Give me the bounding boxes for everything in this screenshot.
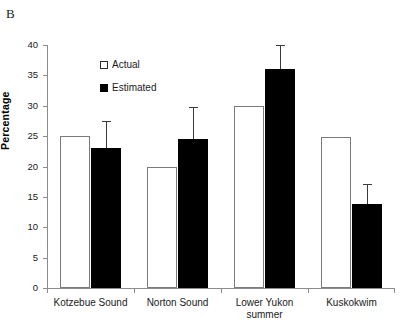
y-tick-label: 20: [18, 162, 38, 171]
open-square-icon: [100, 61, 108, 69]
panel-label: B: [6, 6, 15, 22]
chart-figure: B Percentage 0510152025303540 ActualEsti…: [0, 0, 410, 336]
error-bar-cap: [189, 107, 198, 108]
filled-square-icon: [100, 84, 108, 92]
x-category-label: Lower Yukonsummer: [221, 297, 308, 321]
bar-actual: [60, 136, 90, 288]
y-tick-label: 35: [18, 70, 38, 79]
legend-item-actual: Actual: [100, 60, 140, 70]
bar-estimated: [265, 69, 295, 288]
y-tick-label: 15: [18, 192, 38, 201]
x-category-label-line: summer: [221, 309, 308, 321]
bar-actual: [234, 106, 264, 288]
bar-actual: [321, 137, 351, 288]
error-bar-cap: [363, 184, 372, 185]
error-bar-line: [106, 121, 107, 148]
error-bar-line: [367, 184, 368, 204]
y-tick-label: 30: [18, 101, 38, 110]
y-tick-label: 40: [18, 40, 38, 49]
x-category-label-line: Kotzebue Sound: [47, 297, 134, 309]
y-tick-label: 10: [18, 222, 38, 231]
error-bar-line: [280, 45, 281, 69]
x-category-label: Kotzebue Sound: [47, 297, 134, 309]
y-axis-title: Percentage: [0, 91, 11, 150]
legend-label: Actual: [112, 60, 140, 70]
x-category-label-line: Kuskokwim: [308, 297, 395, 309]
y-tick-label: 25: [18, 131, 38, 140]
x-tick-mark: [221, 288, 222, 293]
x-tick-mark: [394, 288, 395, 293]
plot-area: [47, 45, 395, 288]
x-tick-mark: [134, 288, 135, 293]
x-category-label-line: Norton Sound: [134, 297, 221, 309]
error-bar-cap: [102, 121, 111, 122]
x-category-label-line: Lower Yukon: [221, 297, 308, 309]
bar-estimated: [352, 204, 382, 288]
bar-estimated: [91, 148, 121, 288]
bar-actual: [147, 167, 177, 289]
error-bar-line: [193, 107, 194, 139]
x-category-label: Kuskokwim: [308, 297, 395, 309]
x-tick-mark: [47, 288, 48, 293]
y-tick-label: 0: [18, 283, 38, 292]
error-bar-cap: [276, 45, 285, 46]
legend-label: Estimated: [112, 83, 156, 93]
y-tick-label: 5: [18, 253, 38, 262]
legend-item-estimated: Estimated: [100, 83, 156, 93]
x-tick-mark: [308, 288, 309, 293]
x-category-label: Norton Sound: [134, 297, 221, 309]
bar-estimated: [178, 139, 208, 288]
